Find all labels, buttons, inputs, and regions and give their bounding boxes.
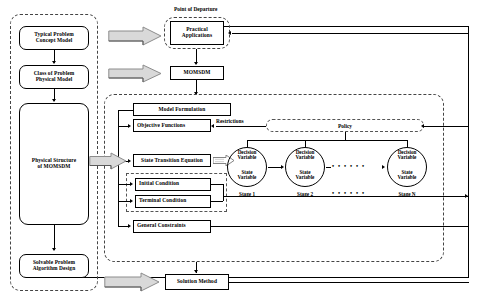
node-label: Practical Applications [182, 27, 212, 38]
node-practical-applications[interactable]: Practical Applications [170, 21, 224, 45]
stage-bus-drop-1 [247, 140, 248, 147]
restrictions-line [216, 126, 266, 127]
general-constraints-to-frame-line [211, 226, 469, 227]
node-label: Terminal Condition [139, 198, 186, 204]
conditions-right-join [223, 184, 224, 201]
stage-n-decision-variable-label: Decision Variable [390, 150, 424, 161]
arrowhead-down-solvable-problem [52, 248, 56, 251]
arrowhead-right-objective-functions [128, 124, 131, 128]
arrowhead-down-solution-method [194, 270, 198, 273]
stage-n-state-variable-label: State Variable [390, 170, 424, 181]
node-solvable-problem-algorithm-design[interactable]: Solvable Problem Algorithm Design [19, 254, 89, 278]
node-label: Objective Functions [137, 123, 185, 129]
node-general-constraints[interactable]: General Constraints [133, 220, 211, 233]
node-typical-problem-concept-model[interactable]: Typical Problem Concept Model [19, 26, 89, 50]
block-arrow-structure-to-model [89, 152, 127, 170]
policy-right-line [424, 126, 469, 127]
stage-1-caption: Stage 1 [227, 192, 267, 197]
connector-structure-to-solvable [54, 225, 55, 250]
node-label: Solvable Problem Algorithm Design [33, 260, 75, 271]
arrowhead-right-initial-condition [130, 182, 133, 186]
node-label: MOMSDM [184, 70, 211, 76]
arrowhead-down-physical-structure [52, 99, 56, 102]
node-momsdm[interactable]: MOMSDM [170, 66, 224, 80]
arrowhead-left-objective-functions [211, 124, 214, 128]
stage-2-decision-variable-label: Decision Variable [288, 150, 322, 161]
node-state-transition-equation[interactable]: State Transition Equation [133, 154, 211, 167]
stage-caption-ellipsis: • • • • • • [332, 190, 365, 196]
node-label: State Transition Equation [141, 158, 203, 164]
node-label: General Constraints [137, 223, 186, 229]
block-arrow-algorithm-to-solution [104, 272, 160, 292]
stage-2-state-variable-label: State Variable [288, 170, 322, 181]
stage-n-caption: Stage N [387, 192, 427, 197]
connector-stage-1-to-stage-2 [268, 167, 282, 168]
outer-frame-bottom-line [196, 277, 469, 278]
node-policy[interactable]: Policy [266, 119, 424, 132]
node-label: Physical Structure of MOMSDM [32, 158, 76, 169]
stage-bus-drop-2 [305, 140, 306, 147]
connector-stage-2-to-ellipsis [326, 167, 331, 168]
arrowhead-right-general-constraints [128, 224, 131, 228]
stage-chain-ellipsis: • • • • • • [332, 163, 365, 169]
restrictions-label: Restrictions [216, 118, 244, 124]
spine-to-model-formulation [118, 110, 133, 111]
node-label: Typical Problem Concept Model [34, 32, 73, 43]
outer-frame-top-line [196, 26, 469, 27]
stage-1-decision-variable-label: Decision Variable [230, 150, 264, 161]
node-label: Initial Condition [139, 181, 179, 187]
arrowhead-right-stage-n [382, 165, 385, 169]
point-of-departure-label: Point of Departure [174, 6, 217, 12]
node-label: Class of Problem Physical Model [34, 71, 75, 82]
block-arrow-physical-to-momsdm [108, 64, 162, 83]
node-model-formulation[interactable]: Model Formulation [133, 103, 231, 116]
arrowhead-down-momsdm [194, 62, 198, 65]
node-label: Solution Method [177, 279, 217, 285]
arrowhead-right-terminal-condition [130, 199, 133, 203]
stage-bus [247, 140, 407, 141]
block-arrow-concept-to-practical [108, 26, 162, 46]
solution-method-right-line [229, 282, 469, 283]
stage-2-caption: Stage 2 [285, 192, 325, 197]
arrowhead-right-stage-2 [281, 165, 284, 169]
initial-condition-right-stub [211, 184, 223, 185]
arrowhead-down-physical-model [52, 61, 56, 64]
arrowhead-right-conditions-to-frame [465, 194, 468, 198]
arrowhead-left-practical-applications [228, 31, 231, 35]
node-terminal-condition[interactable]: Terminal Condition [135, 195, 211, 208]
node-solution-method[interactable]: Solution Method [165, 274, 229, 290]
arrowhead-left-policy [421, 124, 424, 128]
node-objective-functions[interactable]: Objective Functions [133, 119, 211, 132]
stage-bus-drop-3 [407, 140, 408, 147]
diagram-canvas: Typical Problem Concept Model Class of P… [0, 0, 479, 303]
node-label: Policy [338, 123, 352, 129]
node-class-of-problem-physical-model[interactable]: Class of Problem Physical Model [19, 65, 89, 89]
node-initial-condition[interactable]: Initial Condition [135, 178, 211, 191]
node-physical-structure-of-momsdm[interactable]: Physical Structure of MOMSDM [19, 103, 89, 225]
node-label: Model Formulation [159, 107, 206, 113]
policy-to-stage-bus [345, 132, 346, 140]
arrowhead-right-state-transition [128, 159, 131, 163]
terminal-condition-right-stub [211, 201, 223, 202]
stage-1-state-variable-label: State Variable [230, 170, 264, 181]
feedback-line-to-practical-applications [232, 33, 469, 34]
